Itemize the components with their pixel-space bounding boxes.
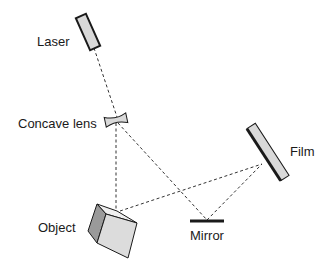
beam-lens-to-mirror: [118, 123, 207, 220]
mirror-label: Mirror: [190, 229, 224, 242]
beam-laser-to-lens: [94, 48, 117, 117]
film-label: Film: [290, 145, 315, 158]
object-label: Object: [38, 221, 76, 234]
laser-label: Laser: [37, 35, 70, 48]
film-icon: [247, 123, 289, 180]
concave-lens-label: Concave lens: [18, 117, 97, 130]
laser-icon: [76, 14, 100, 50]
object-cube-icon: [88, 204, 137, 258]
beam-mirror-to-film: [207, 164, 262, 220]
beam-object-to-film: [120, 164, 262, 211]
light-beams: [94, 48, 262, 220]
